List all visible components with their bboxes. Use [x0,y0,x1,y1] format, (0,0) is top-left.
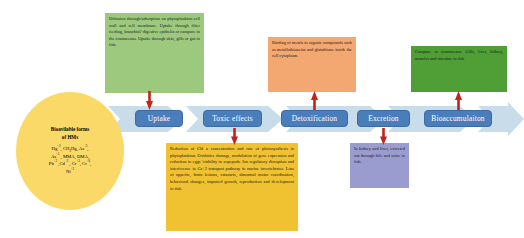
connector-arrow-uptake [146,91,153,110]
description-box-toxic-effects: Reduction of Chl a concentration and rat… [166,143,298,231]
stage-label-excretion: Excretion [368,114,399,123]
stage-label-bioaccumulation: Bioaccumulaiton [431,114,485,123]
stage-label-uptake: Uptake [148,114,171,123]
description-text-detoxification: Binding of metals to organic compounds s… [272,40,352,58]
description-box-detoxification: Binding of metals to organic compounds s… [268,37,356,92]
stage-label-detoxification: Detoxification [292,114,338,123]
connector-arrow-detoxification [311,91,318,110]
description-text-bioaccumulation: Carapace in crustaceans. Gills, liver, k… [415,49,503,61]
description-text-toxic-effects: Reduction of Chl a concentration and rat… [170,146,294,191]
description-box-bioaccumulation: Carapace in crustaceans. Gills, liver, k… [411,46,507,92]
bioavailable-forms-ellipse: Bioavilable formsof HMs Hg+2, CH3Hg, As+… [16,92,124,210]
description-box-uptake: Diffusion through/adsorption on phytopla… [105,13,204,93]
ellipse-title: Bioavilable formsof HMs [51,126,89,141]
stage-label-toxic-effects: Toxic effects [212,114,253,123]
stage-pill-excretion[interactable]: Excretion [357,110,410,127]
stage-pill-bioaccumulation[interactable]: Bioaccumulaiton [424,110,492,127]
connector-arrow-toxic-effects [231,128,238,145]
ellipse-species-list: Hg+2, CH3Hg, As+3, As+5 , MMA, DMA, Pb+2… [49,145,91,175]
diagram-canvas: Bioavilable formsof HMs Hg+2, CH3Hg, As+… [0,0,524,238]
description-box-excretion: In kidney and liver, excreted out throug… [350,143,409,188]
description-text-uptake: Diffusion through/adsorption on phytopla… [109,16,200,47]
connector-arrow-excretion [380,128,387,145]
connector-arrow-bioaccumulation [455,91,462,110]
stage-pill-uptake[interactable]: Uptake [135,110,183,127]
stage-pill-detoxification[interactable]: Detoxification [281,110,348,127]
description-text-excretion: In kidney and liver, excreted out throug… [354,146,405,164]
stage-pill-toxic-effects[interactable]: Toxic effects [203,110,262,127]
